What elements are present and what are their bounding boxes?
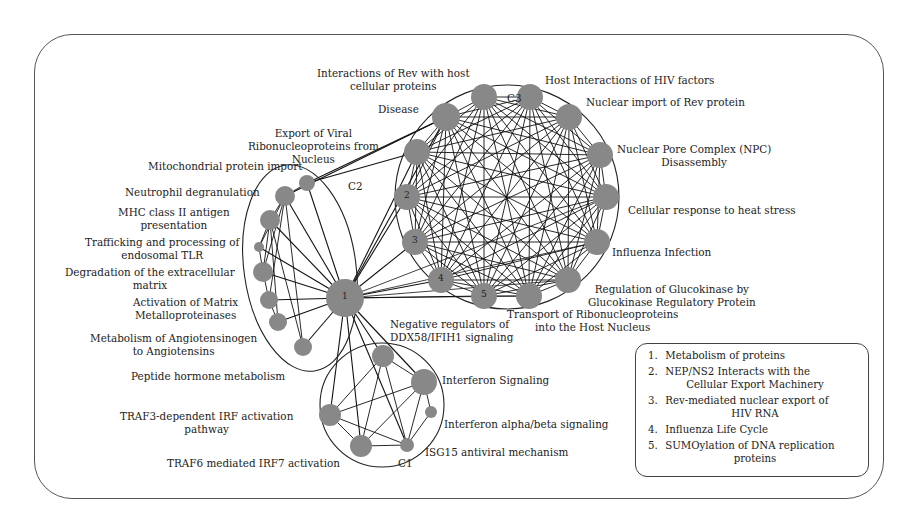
node-number-3: 3 — [412, 235, 418, 245]
c2-node — [294, 338, 312, 356]
c3-node — [556, 104, 582, 130]
label-angiotensin: Metabolism of Angiotensinogento Angioten… — [90, 332, 257, 358]
cluster-label-c2: C2 — [348, 180, 363, 192]
label-glucokinase: Regulation of Glucokinase byGlucokinase … — [588, 283, 756, 309]
c2-node — [299, 175, 315, 191]
c2-node — [254, 242, 264, 252]
label-traf3: TRAF3-dependent IRF activationpathway — [120, 410, 293, 436]
c1-node — [350, 435, 372, 457]
label-host-interactions: Host Interactions of HIV factors — [545, 74, 714, 87]
cluster-label-c1: C1 — [398, 457, 413, 469]
legend: 1. Metabolism of proteins 2. NEP/NS2 Int… — [635, 343, 869, 477]
label-mhc: MHC class II antigenpresentation — [118, 206, 230, 232]
label-heat-stress: Cellular response to heat stress — [628, 204, 796, 217]
label-interferon-alpha: Interferon alpha/beta signaling — [444, 418, 609, 431]
c3-node — [404, 139, 430, 165]
label-influenza-infection: Influenza Infection — [612, 246, 711, 259]
label-interferon-signaling: Interferon Signaling — [442, 374, 549, 387]
legend-item-5: 5. SUMOylation of DNA replicationprotein… — [648, 439, 862, 465]
label-peptide-hormone: Peptide hormone metabolism — [131, 370, 285, 383]
label-activation-mmp: Activation of MatrixMetalloproteinases — [133, 296, 238, 322]
label-transport-rnp: Transport of Ribonucleoproteinsinto the … — [507, 308, 678, 334]
c3-node — [555, 267, 581, 293]
node-number-2: 2 — [404, 190, 410, 200]
c3-node — [584, 229, 610, 255]
c1-node — [372, 345, 394, 367]
c1-node — [400, 438, 414, 452]
label-nuclear-import: Nuclear import of Rev protein — [586, 96, 745, 109]
c3-node — [587, 142, 613, 168]
legend-item-1: 1. Metabolism of proteins — [648, 349, 862, 362]
label-trafficking: Trafficking and processing ofendosomal T… — [85, 236, 239, 262]
label-isg15: ISG15 antiviral mechanism — [425, 446, 568, 459]
label-traf6: TRAF6 mediated IRF7 activation — [167, 457, 340, 470]
c2-node — [260, 210, 280, 230]
c2-node — [269, 313, 287, 331]
c3-node — [593, 184, 619, 210]
label-disease: Disease — [378, 103, 419, 116]
c1-node — [411, 369, 437, 395]
label-npc: Nuclear Pore Complex (NPC)Disassembly — [617, 143, 771, 169]
label-degradation: Degradation of the extracellularmatrix — [65, 266, 235, 292]
c3-node — [516, 283, 542, 309]
label-mito: Mitochondrial protein import — [148, 160, 302, 173]
legend-item-3: 3. Rev-mediated nuclear export ofHIV RNA — [648, 394, 862, 420]
c1-node — [319, 404, 341, 426]
node-number-5: 5 — [481, 289, 487, 299]
c3-node — [471, 84, 497, 110]
c1-node — [425, 406, 437, 418]
node-number-4: 4 — [438, 273, 444, 283]
c2-node — [253, 262, 273, 282]
label-neutrophil: Neutrophil degranulation — [125, 186, 260, 199]
cluster-label-c3: C3 — [507, 92, 522, 104]
legend-item-4: 4. Influenza Life Cycle — [648, 423, 862, 436]
legend-item-2: 2. NEP/NS2 Interacts with theCellular Ex… — [648, 365, 862, 391]
c2-node — [260, 291, 278, 309]
c3-node — [432, 103, 460, 131]
node-number-1: 1 — [342, 291, 348, 301]
c2-node — [275, 186, 295, 206]
label-interactions-rev: Interactions of Rev with hostcellular pr… — [317, 67, 470, 93]
label-negative-regulators: Negative regulators ofDDX58/IFIH1 signal… — [390, 318, 513, 344]
